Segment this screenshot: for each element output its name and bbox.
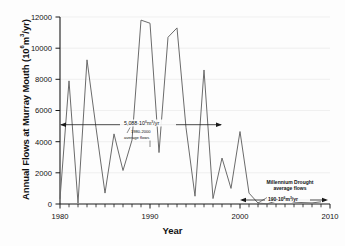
annotation-average-value-text: 5,088·10 [124, 120, 145, 126]
annotation-average-caption: average flows [124, 135, 149, 140]
y-tick-label-10000: 10000 [31, 44, 52, 53]
y-tick-label-2000: 2000 [35, 169, 52, 178]
annotation-drought-value: 190·106m3/yr [268, 196, 298, 202]
annotation-drought-title: Millennium Drought [267, 179, 314, 185]
figure-container: Annual Flows at Murray Mouth (106m3/yr) … [0, 0, 345, 246]
x-axis-tick-labels: 1980 1990 2000 2010 [52, 212, 339, 221]
y-tick-label-6000: 6000 [35, 106, 52, 115]
data-series-line [60, 20, 321, 204]
x-tick-label-1990: 1990 [142, 212, 159, 221]
annotation-millennium-drought: Millennium Drought average flows 190·106… [240, 179, 328, 203]
chart-plot: 12000 10000 8000 6000 4000 2000 0 [0, 0, 345, 246]
y-axis-ticks [56, 17, 61, 204]
x-tick-label-2010: 2010 [322, 212, 339, 221]
y-axis-tick-labels: 12000 10000 8000 6000 4000 2000 0 [31, 13, 52, 209]
annotation-average-period: 1980-2000 [131, 129, 151, 134]
x-tick-label-2000: 2000 [232, 212, 249, 221]
y-tick-label-12000: 12000 [31, 13, 52, 22]
x-axis-minor-ticks [60, 204, 330, 209]
annotation-drought-caption: average flows [273, 185, 306, 191]
gridlines [60, 17, 330, 173]
y-tick-label-0: 0 [48, 200, 52, 209]
annotation-average-tail: /yr [153, 120, 159, 126]
y-tick-label-8000: 8000 [35, 75, 52, 84]
y-tick-label-4000: 4000 [35, 138, 52, 147]
annotation-drought-tail: /yr [292, 196, 298, 202]
annotation-average-value: 5,088·106m3/yr [124, 120, 159, 126]
annotation-pre-drought-average: 5,088·106m3/yr 1980-2000 average flows [60, 120, 222, 148]
x-tick-label-1980: 1980 [52, 212, 69, 221]
annotation-drought-value-text: 190·10 [268, 196, 284, 202]
